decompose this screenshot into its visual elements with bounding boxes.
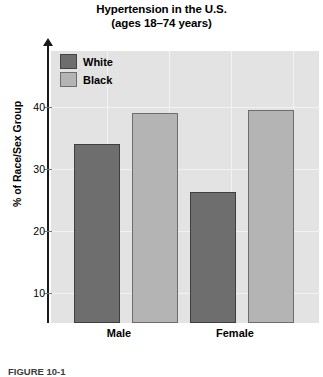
legend-label-black: Black [83,74,112,86]
y-axis-label: % of Race/Sex Group [11,79,23,229]
legend-label-white: White [83,56,113,68]
legend-item-white: White [60,54,113,69]
figure-caption: FIGURE 10-1 [8,366,66,377]
x-tick-label-female: Female [190,327,280,339]
x-tick-label-male: Male [74,327,164,339]
y-tick-label-10: 10 [6,287,45,299]
legend-swatch-black [60,72,77,87]
legend-item-black: Black [60,72,113,87]
legend: White Black [60,54,113,87]
legend-swatch-white [60,54,77,69]
figure-container: Hypertension in the U.S. (ages 18–74 yea… [0,0,323,377]
y-tick-labels: 40 30 20 10 [0,0,323,377]
